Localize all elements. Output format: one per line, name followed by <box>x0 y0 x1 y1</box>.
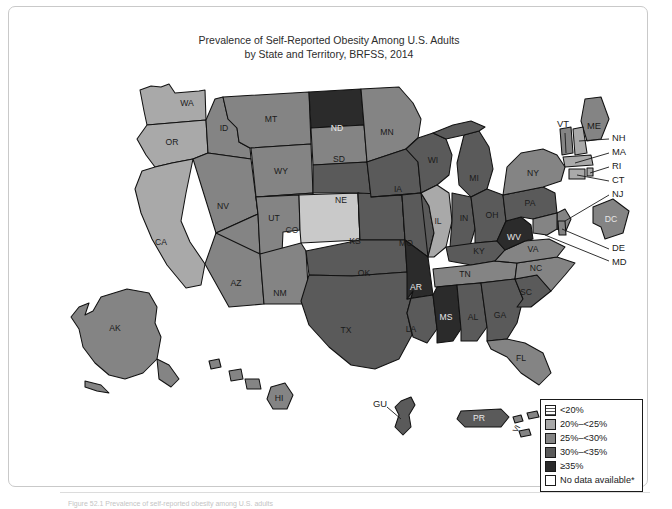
label-NY: NY <box>527 168 539 178</box>
legend-item-5[interactable]: No data available* <box>545 473 638 487</box>
label-TX: TX <box>341 325 352 335</box>
label-VA: VA <box>528 244 539 254</box>
state-DE[interactable] <box>558 221 566 235</box>
legend-label-1: 20%–<25% <box>560 419 607 429</box>
label-DC: DC <box>605 214 617 224</box>
ak-aleutians[interactable] <box>85 381 109 393</box>
label-PR: PR <box>473 413 485 423</box>
map-legend: <20% 20%–<25% 25%–<30% 30%–<35% ≥35% No … <box>540 399 643 492</box>
label-NM: NM <box>273 288 286 298</box>
label-MN: MN <box>380 127 393 137</box>
state-CA[interactable] <box>135 159 205 288</box>
callout-CT: CT <box>612 174 625 185</box>
state-AK[interactable] <box>71 289 161 379</box>
state-VT[interactable] <box>560 127 573 155</box>
label-UT: UT <box>268 213 280 223</box>
hi-islands[interactable] <box>209 359 261 389</box>
label-WV: WV <box>507 232 521 242</box>
state-CT[interactable] <box>569 169 585 179</box>
label-SD: SD <box>333 154 345 164</box>
figure-caption: Figure 52.1 Prevalence of self-reported … <box>68 500 488 508</box>
label-WI: WI <box>428 155 439 165</box>
label-PA: PA <box>525 198 536 208</box>
label-WY: WY <box>274 166 288 176</box>
label-NV: NV <box>217 201 229 211</box>
label-KS: KS <box>349 236 361 246</box>
label-MT: MT <box>265 114 278 124</box>
state-MI[interactable] <box>457 131 493 197</box>
state-WA[interactable] <box>140 84 206 125</box>
label-AZ: AZ <box>231 278 242 288</box>
label-SC: SC <box>520 287 532 297</box>
label-MO: MO <box>399 238 413 248</box>
legend-item-1[interactable]: 20%–<25% <box>545 417 638 431</box>
callout-MA: MA <box>612 146 627 157</box>
caption-rule <box>60 492 650 493</box>
label-CO: CO <box>286 225 299 235</box>
label-ME: ME <box>587 120 601 131</box>
label-ND: ND <box>331 123 343 133</box>
legend-label-3: 30%–<35% <box>560 447 607 457</box>
leader-DE <box>562 229 609 249</box>
callout-RI: RI <box>612 160 621 171</box>
label-VT: VT <box>557 118 569 129</box>
label-GA: GA <box>494 310 507 320</box>
legend-label-5: No data available* <box>560 475 635 485</box>
state-ME[interactable] <box>581 97 609 141</box>
label-HI: HI <box>275 393 284 403</box>
callout-NH: NH <box>612 132 626 143</box>
label-MI: MI <box>469 173 479 183</box>
legend-swatch-3 <box>545 447 556 458</box>
legend-label-2: 25%–<30% <box>560 433 607 443</box>
state-ND[interactable] <box>309 89 364 128</box>
figure-frame: Prevalence of Self-Reported Obesity Amon… <box>8 6 648 487</box>
label-IN: IN <box>460 213 469 223</box>
legend-item-0[interactable]: <20% <box>545 403 638 417</box>
label-NC: NC <box>530 263 542 273</box>
label-OH: OH <box>486 210 499 220</box>
label-OR: OR <box>166 137 179 147</box>
label-LA: LA <box>406 324 417 334</box>
ak-panhandle[interactable] <box>157 359 179 387</box>
legend-label-0: <20% <box>560 405 584 415</box>
legend-swatch-5 <box>545 475 556 486</box>
label-AK: AK <box>109 323 121 333</box>
legend-swatch-4 <box>545 461 556 472</box>
legend-item-4[interactable]: ≥35% <box>545 459 638 473</box>
legend-item-2[interactable]: 25%–<30% <box>545 431 638 445</box>
label-GU: GU <box>373 398 387 409</box>
label-OK: OK <box>358 268 371 278</box>
label-ID: ID <box>220 123 229 133</box>
label-AR: AR <box>410 282 422 292</box>
label-IA: IA <box>394 184 402 194</box>
label-WA: WA <box>180 98 194 108</box>
label-FL: FL <box>516 353 526 363</box>
legend-swatch-2 <box>545 433 556 444</box>
label-TN: TN <box>459 269 470 279</box>
callout-MD: MD <box>612 256 627 267</box>
legend-label-4: ≥35% <box>560 461 583 471</box>
state-TX[interactable] <box>301 272 413 369</box>
state-KS-main[interactable] <box>358 193 405 240</box>
legend-item-3[interactable]: 30%–<35% <box>545 445 638 459</box>
state-MA[interactable] <box>563 155 593 167</box>
label-AL: AL <box>468 312 479 322</box>
label-MS: MS <box>440 312 453 322</box>
state-NE[interactable] <box>313 162 371 197</box>
legend-swatch-1 <box>545 419 556 430</box>
label-CA: CA <box>155 237 167 247</box>
legend-swatch-0 <box>545 405 556 416</box>
label-KY: KY <box>473 246 485 256</box>
callout-NJ: NJ <box>612 188 623 199</box>
label-IL: IL <box>434 216 441 226</box>
label-NE: NE <box>335 195 347 205</box>
callout-DE: DE <box>612 242 625 253</box>
